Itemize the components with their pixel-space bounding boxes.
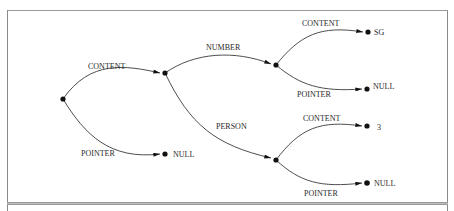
edge-content-person <box>165 73 271 158</box>
edge-root-content <box>63 67 160 99</box>
edge-label-number-content: CONTENT <box>302 19 339 28</box>
node-content <box>162 70 167 75</box>
node-label-null-root: NULL <box>173 150 194 159</box>
edge-person-pointer <box>276 160 362 185</box>
node-null-number <box>364 86 369 91</box>
node-null-person <box>364 180 370 186</box>
node-number <box>273 62 278 67</box>
edge-label-content-number: NUMBER <box>206 43 241 52</box>
node-label-null-person: NULL <box>374 179 395 188</box>
node-label-three: 3 <box>377 123 381 132</box>
node-label-sg: SG <box>374 28 384 37</box>
edge-content-number <box>165 55 271 73</box>
node-sg <box>365 29 370 34</box>
edge-label-content-person: PERSON <box>216 122 247 131</box>
edge-root-pointer <box>63 99 160 155</box>
edge-label-person-pointer: POINTER <box>304 189 338 198</box>
node-three <box>364 123 369 128</box>
node-root <box>60 96 65 101</box>
node-person <box>273 157 278 162</box>
edge-label-number-pointer: POINTER <box>297 90 331 99</box>
edge-label-person-content: CONTENT <box>303 114 340 123</box>
edge-number-pointer <box>276 65 362 90</box>
edge-person-content <box>276 124 362 160</box>
edge-number-content <box>276 30 363 65</box>
edge-label-root-pointer: POINTER <box>81 149 115 158</box>
node-null-root <box>162 151 167 156</box>
edge-label-root-content: CONTENT <box>88 62 125 71</box>
node-label-null-number: NULL <box>373 82 394 91</box>
tree-diagram: CONTENT POINTER NUMBER PERSON CONTENT PO… <box>0 0 454 211</box>
